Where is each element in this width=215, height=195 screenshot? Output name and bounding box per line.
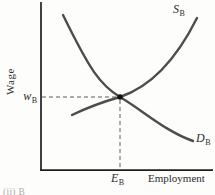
- equilibrium-wage-label-main: w: [23, 89, 31, 103]
- demand-curve-label: DB: [196, 132, 211, 147]
- demand-curve-label-subscript: B: [205, 138, 210, 147]
- supply-curve-label: SB: [173, 3, 185, 18]
- x-axis-label: Employment: [148, 173, 205, 184]
- equilibrium-point: [117, 94, 122, 99]
- supply-curve-label-subscript: B: [180, 9, 185, 18]
- equilibrium-employment-label-main: E: [111, 171, 118, 185]
- panel-caption-clipped: (ii) B: [3, 187, 25, 195]
- y-axis-label: Wage: [5, 60, 16, 104]
- equilibrium-employment-label-subscript: B: [119, 178, 124, 187]
- equilibrium-employment-label: EB: [111, 172, 124, 187]
- supply-demand-diagram: Wage Employment SB DB wB EB (ii) B: [0, 0, 215, 195]
- demand-curve: [63, 15, 193, 141]
- demand-curve-label-main: D: [196, 131, 205, 145]
- equilibrium-wage-label-subscript: B: [32, 96, 37, 105]
- equilibrium-wage-label: wB: [20, 90, 37, 105]
- supply-curve-label-main: S: [173, 2, 179, 16]
